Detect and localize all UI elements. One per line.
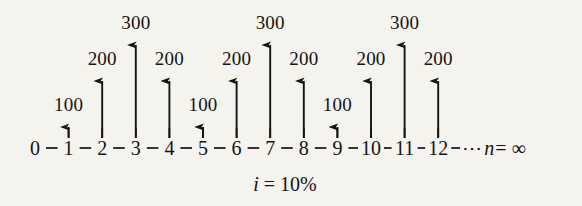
- cash-flow-value-label: 200: [356, 49, 385, 68]
- timeline-ellipsis: ⋯: [462, 137, 483, 159]
- cash-flow-value-label: 100: [323, 95, 352, 114]
- cash-flow-value-label: 200: [222, 49, 251, 68]
- period-label-4: 4: [163, 138, 175, 158]
- cash-flow-value-label: 100: [188, 95, 217, 114]
- period-label-2: 2: [96, 138, 108, 158]
- period-label-12: 12: [427, 138, 449, 158]
- interest-rate-symbol: i: [253, 173, 259, 195]
- cash-flow-value-label: 200: [424, 49, 453, 68]
- period-label-1: 1: [63, 138, 75, 158]
- period-label-8: 8: [298, 138, 310, 158]
- cash-flow-value-label: 200: [88, 49, 117, 68]
- period-label-7: 7: [264, 138, 276, 158]
- period-label-3: 3: [130, 138, 142, 158]
- cash-flow-diagram: 100200300200100200300200100200300200 012…: [0, 0, 582, 206]
- period-label-6: 6: [231, 138, 243, 158]
- period-label-11: 11: [394, 138, 415, 158]
- cash-flow-value-label: 100: [54, 95, 83, 114]
- interest-rate-label: i = 10%: [253, 174, 317, 194]
- period-label-9: 9: [331, 138, 343, 158]
- timeline-n-symbol: n: [483, 137, 495, 159]
- cash-flow-value-label: 200: [289, 49, 318, 68]
- period-label-5: 5: [197, 138, 209, 158]
- interest-rate-value: = 10%: [264, 173, 317, 195]
- timeline-infinity-label: ⋯n= ∞: [460, 138, 526, 158]
- cash-flow-value-label: 200: [155, 49, 184, 68]
- period-label-10: 10: [360, 138, 382, 158]
- cash-flow-value-label: 300: [121, 13, 150, 32]
- cash-flow-value-label: 300: [390, 13, 419, 32]
- cash-flow-value-label: 300: [256, 13, 285, 32]
- timeline-n-value: = ∞: [495, 137, 526, 159]
- period-label-0: 0: [29, 138, 41, 158]
- timeline-ticks: [69, 128, 439, 138]
